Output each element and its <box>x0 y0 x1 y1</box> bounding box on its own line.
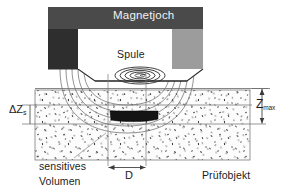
sensitives-label: sensitives <box>39 161 86 172</box>
pruefobjekt-label: Prüfobjekt <box>202 170 250 181</box>
volumen-label: Volumen <box>39 176 81 187</box>
delta-z-symbol: ΔZ <box>9 103 23 115</box>
diameter-label: D <box>125 170 133 181</box>
yoke-pole-left <box>48 29 78 69</box>
delta-z-subscript: s <box>23 109 27 116</box>
magnetjoch-label: Magnetjoch <box>113 10 174 22</box>
spule-label: Spule <box>117 49 145 60</box>
z-max-subscript: max <box>263 104 275 111</box>
delta-z-label: ΔZs <box>9 104 27 116</box>
defect-indication <box>110 111 158 122</box>
yoke-pole-right <box>172 29 203 69</box>
z-max-label: Zmax <box>256 98 275 112</box>
